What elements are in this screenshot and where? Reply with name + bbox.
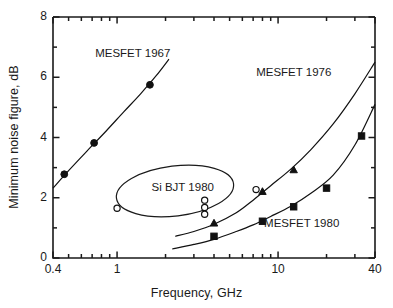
marker-si-bjt-1980: [202, 204, 208, 210]
marker-si-bjt-1980: [202, 197, 208, 203]
marker-mesfet-1980: [290, 204, 296, 210]
y-axis-title: Minimum noise figure, dB: [7, 37, 21, 237]
series-label-si-bjt-1980: Si BJT 1980: [152, 181, 214, 193]
series-label-mesfet-1980: MESFET 1980: [264, 217, 339, 229]
marker-mesfet-1980: [323, 185, 329, 191]
series-markers: [61, 81, 365, 239]
series-label-mesfet-1967: MESFET 1967: [95, 47, 170, 59]
y-tick-label: 2: [27, 190, 47, 204]
marker-mesfet-1967: [91, 140, 98, 147]
marker-si-bjt-1980: [202, 211, 208, 217]
y-tick-label: 6: [27, 69, 47, 83]
x-tick-label: 40: [355, 262, 393, 276]
y-tick-label: 4: [27, 130, 47, 144]
marker-si-bjt-1980: [253, 187, 259, 193]
marker-mesfet-1980: [211, 233, 217, 239]
noise-figure-chart: 024680.411040MESFET 1967MESFET 1976MESFE…: [0, 0, 393, 308]
y-tick-label: 8: [27, 9, 47, 23]
x-axis-title: Frequency, GHz: [0, 286, 393, 300]
marker-si-bjt-1980: [114, 205, 120, 211]
marker-mesfet-1980: [358, 133, 364, 139]
curve-mesfet-1967: [53, 59, 169, 188]
x-tick-label: 10: [258, 262, 298, 276]
x-tick-label: 0.4: [33, 262, 73, 276]
series-label-mesfet-1976: MESFET 1976: [256, 66, 331, 78]
x-tick-label: 1: [97, 262, 137, 276]
marker-mesfet-1967: [147, 81, 154, 88]
marker-mesfet-1967: [61, 171, 68, 178]
